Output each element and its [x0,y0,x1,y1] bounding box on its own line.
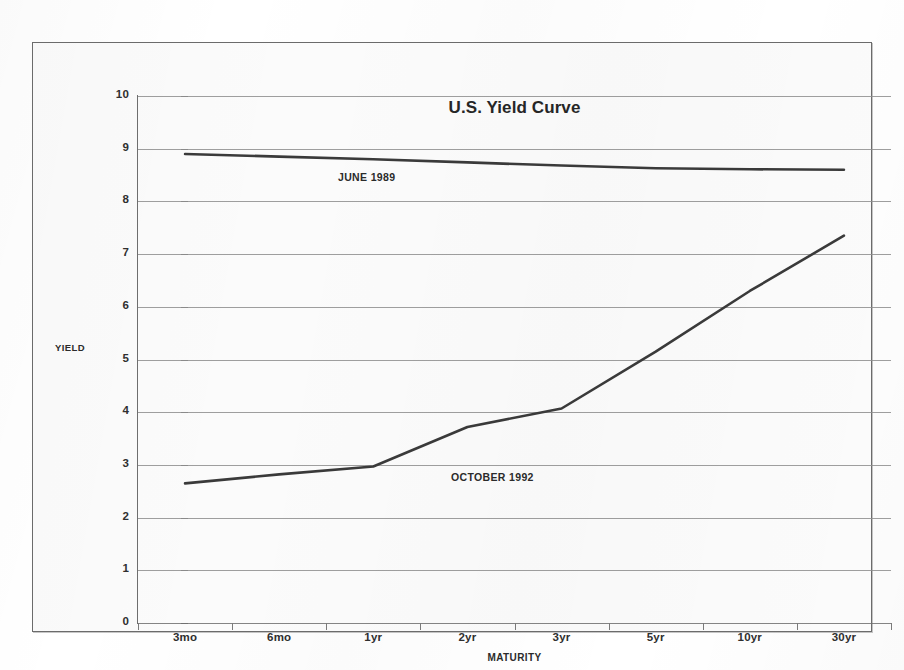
y-tick-label: 3 [87,457,129,469]
y-tick-label: 1 [87,562,129,574]
x-tick-mark [609,623,610,630]
series-line-october-1992 [185,236,844,484]
x-tick-mark [326,623,327,630]
x-tick-label-30yr: 30yr [789,631,899,643]
x-tick-mark [797,623,798,630]
x-tick-mark [515,623,516,630]
y-tick-label: 2 [87,510,129,522]
plot-area [138,96,891,623]
scanned-page: U.S. Yield Curve YIELD MATURITY 01234567… [0,0,904,670]
series-layer [138,96,891,623]
x-tick-mark [891,623,892,630]
x-tick-mark [232,623,233,630]
series-label-october-1992: OCTOBER 1992 [451,471,534,483]
x-axis-title: MATURITY [138,652,891,663]
y-tick-label: 7 [87,246,129,258]
y-tick-label: 0 [87,615,129,627]
chart-frame: U.S. Yield Curve YIELD MATURITY 01234567… [32,42,872,632]
x-tick-mark [420,623,421,630]
y-tick-label: 4 [87,404,129,416]
y-tick-label: 8 [87,193,129,205]
series-label-june-1989: JUNE 1989 [338,171,395,183]
x-tick-mark [138,623,139,630]
series-line-june-1989 [185,154,844,170]
x-tick-mark [703,623,704,630]
y-tick-label: 10 [87,88,129,100]
y-tick-label: 5 [87,352,129,364]
y-axis-ticks: 012345678910 [83,43,129,633]
y-tick-label: 6 [87,299,129,311]
y-tick-label: 9 [87,141,129,153]
